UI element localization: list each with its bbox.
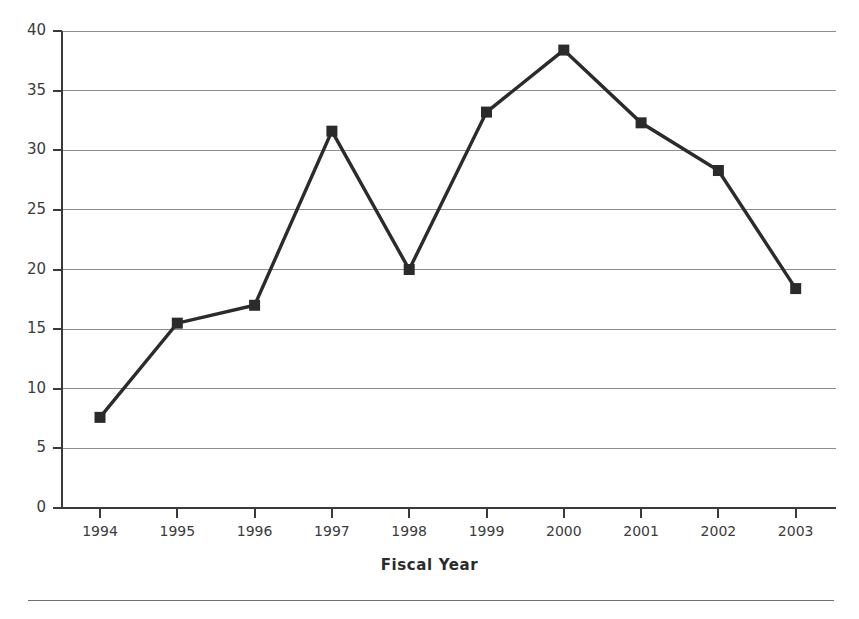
data-point-marker — [249, 300, 260, 311]
data-point-marker — [172, 318, 183, 329]
data-point-marker — [95, 412, 106, 423]
data-point-marker — [790, 283, 801, 294]
data-point-marker — [404, 264, 415, 275]
data-point-marker — [326, 126, 337, 137]
data-point-marker — [636, 117, 647, 128]
x-axis-title: Fiscal Year — [0, 556, 859, 574]
series-line — [100, 50, 796, 417]
plot-area: 0510152025303540 19941995199619971998199… — [0, 0, 859, 619]
chart-figure: 0510152025303540 19941995199619971998199… — [0, 0, 859, 619]
series-markers — [95, 45, 802, 423]
data-point-marker — [558, 45, 569, 56]
footer-divider — [28, 600, 834, 601]
data-point-marker — [713, 165, 724, 176]
data-point-marker — [481, 107, 492, 118]
data-series-layer — [0, 0, 859, 619]
